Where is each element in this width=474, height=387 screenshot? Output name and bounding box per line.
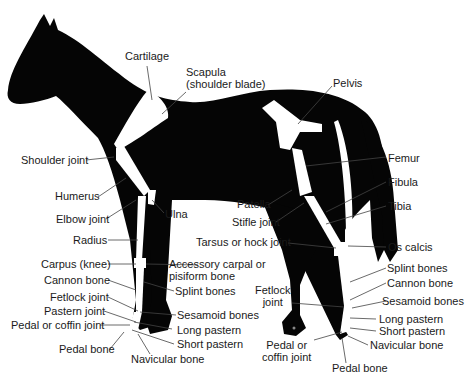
label-accessory-carpal: Accessory carpal or pisiform bone <box>169 258 266 282</box>
label-os-calcis: Os calcis <box>388 241 433 253</box>
label-pedal-bone-fore: Pedal bone <box>59 343 115 355</box>
label-fibula: Fibula <box>388 176 418 188</box>
label-pastern-joint: Pastern joint <box>44 305 105 317</box>
label-elbow-joint: Elbow joint <box>56 213 109 225</box>
hock-bone <box>334 242 346 256</box>
label-patella: Patella <box>237 198 271 210</box>
label-pedal-bone-hind: Pedal bone <box>332 362 388 374</box>
label-cartilage: Cartilage <box>125 50 169 62</box>
label-long-pastern-hind: Long pastern <box>379 313 443 325</box>
label-radius: Radius <box>73 234 107 246</box>
label-splint-bones-fore: Splint bones <box>175 285 236 297</box>
label-pedal-coffin-joint-fore: Pedal or coffin joint <box>11 319 104 331</box>
label-stifle-joint: Stifle joint <box>232 216 280 228</box>
label-scapula: Scapula (shoulder blade) <box>186 66 266 90</box>
label-navicular-bone-hind: Navicular bone <box>370 339 443 351</box>
label-pedal-coffin-joint-hind: Pedal or coffin joint <box>262 339 311 363</box>
label-pelvis: Pelvis <box>333 77 362 89</box>
label-humerus: Humerus <box>55 190 100 202</box>
horse-skeleton-diagram: Cartilage Scapula (shoulder blade) Pelvi… <box>0 0 474 387</box>
label-cannon-bone-hind: Cannon bone <box>387 277 453 289</box>
label-short-pastern-hind: Short pastern <box>379 325 445 337</box>
label-ulna: Ulna <box>165 208 188 220</box>
carpus-bone <box>134 258 146 268</box>
label-tibia: Tibia <box>388 200 411 212</box>
label-shoulder-joint: Shoulder joint <box>21 154 88 166</box>
label-carpus: Carpus (knee) <box>41 258 111 270</box>
label-tarsus-hock-joint: Tarsus or hock joint <box>196 236 291 248</box>
hoof-nail-mark <box>293 327 296 330</box>
label-cannon-bone-fore: Cannon bone <box>44 274 110 286</box>
label-sesamoid-bones-hind: Sesamoid bones <box>382 295 464 307</box>
label-fetlock-joint-hind: Fetlock joint <box>255 284 290 308</box>
label-navicular-bone-fore: Navicular bone <box>131 353 204 365</box>
label-splint-bones-hind: Splint bones <box>387 262 448 274</box>
label-fetlock-joint-fore: Fetlock joint <box>50 291 109 303</box>
label-sesamoid-bones-fore: Sesamoid bones <box>177 309 259 321</box>
label-long-pastern-fore: Long pastern <box>177 324 241 336</box>
label-femur: Femur <box>388 152 420 164</box>
label-short-pastern-fore: Short pastern <box>177 338 243 350</box>
